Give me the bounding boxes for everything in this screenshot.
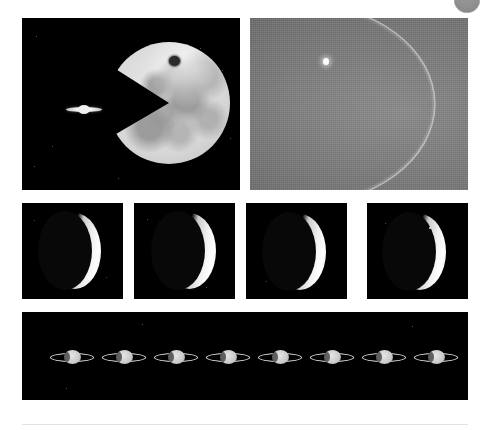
figure-page	[0, 0, 489, 430]
corner-disc-mark	[454, 0, 480, 13]
crescent-horn-knot	[429, 227, 431, 229]
star	[412, 326, 413, 327]
crescent-group	[246, 203, 347, 299]
saturn-frame	[362, 347, 406, 367]
footer-divider	[22, 424, 468, 425]
star	[118, 178, 119, 179]
field-speck	[106, 277, 107, 278]
saturn-shadow	[64, 352, 70, 362]
saturn-disc	[78, 105, 90, 114]
star	[66, 388, 67, 389]
saturn-shadow	[168, 352, 174, 362]
moon-dark-crater	[169, 56, 180, 66]
star	[200, 48, 201, 49]
star	[34, 166, 35, 167]
bright-point-source	[323, 58, 329, 65]
saturn-shadow	[428, 352, 434, 362]
image-plate-crescent-3[interactable]	[246, 203, 347, 299]
field-speck	[34, 220, 35, 221]
crescent-shadow-mask	[262, 212, 316, 291]
crescent-group	[367, 203, 468, 299]
star	[142, 324, 143, 325]
star	[36, 36, 37, 37]
saturn-frame	[154, 347, 198, 367]
crescent-group	[134, 203, 235, 299]
image-plate-venus-daylight[interactable]	[250, 18, 468, 190]
saturn-shadow	[272, 352, 278, 362]
saturn-shadow	[220, 352, 226, 362]
saturn-shadow	[116, 352, 122, 362]
field-speck	[385, 223, 386, 224]
crescent-shadow-mask	[151, 211, 205, 290]
star	[230, 138, 231, 139]
saturn-frame	[206, 347, 250, 367]
saturn-frame	[102, 347, 146, 367]
saturn-shadow	[324, 352, 330, 362]
field-speck	[206, 287, 207, 288]
saturn-frame	[50, 347, 94, 367]
image-plate-crescent-1[interactable]	[22, 203, 123, 299]
crescent-shadow-mask	[382, 212, 436, 291]
image-plate-saturn-sequence[interactable]	[22, 312, 468, 400]
crescent-group	[22, 203, 123, 299]
image-plate-moon-saturn[interactable]	[22, 18, 240, 190]
image-plate-crescent-4[interactable]	[367, 203, 468, 299]
star	[52, 146, 53, 147]
field-speck	[147, 219, 148, 220]
saturn-small	[66, 102, 102, 116]
saturn-frame	[258, 347, 302, 367]
saturn-frame	[310, 347, 354, 367]
saturn-frame	[414, 347, 458, 367]
star	[222, 70, 223, 71]
crescent-shadow-mask	[38, 211, 92, 290]
field-speck	[266, 281, 267, 282]
saturn-shadow	[376, 352, 382, 362]
image-plate-crescent-2[interactable]	[134, 203, 235, 299]
